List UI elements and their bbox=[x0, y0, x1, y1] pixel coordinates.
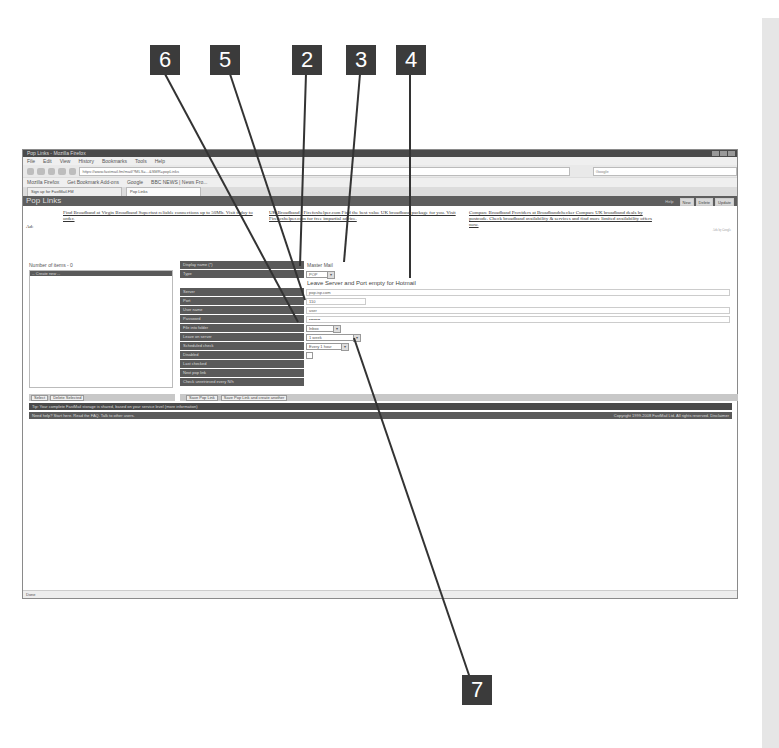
bookmark-item[interactable]: Google bbox=[127, 178, 143, 187]
browser-status-bar: Done bbox=[23, 590, 737, 598]
leave-on-server-value: 1 week bbox=[309, 335, 322, 340]
maximize-icon[interactable] bbox=[720, 151, 727, 156]
scheduled-check-select[interactable]: Every 1 hour▾ bbox=[306, 343, 342, 350]
display-name-input[interactable]: Master Mail bbox=[307, 262, 333, 268]
field-label: Server bbox=[180, 288, 304, 296]
field-label: Scheduled check bbox=[180, 342, 304, 350]
callout-2: 2 bbox=[292, 45, 322, 75]
reload-icon[interactable] bbox=[48, 168, 55, 175]
bookmark-item[interactable]: BBC NEWS | News Fro... bbox=[151, 178, 207, 187]
field-folder: File into folder Inbox▾ bbox=[180, 324, 732, 332]
chevron-down-icon[interactable]: ▾ bbox=[341, 343, 349, 351]
callout-5: 5 bbox=[210, 45, 240, 75]
form-actions: Save Pop Link Save Pop Link and create a… bbox=[180, 394, 738, 401]
update-button[interactable]: Update bbox=[715, 198, 734, 206]
bookmark-item[interactable]: Get Bookmark Add-ons bbox=[67, 178, 119, 187]
menu-edit[interactable]: Edit bbox=[43, 157, 52, 165]
callout-6: 6 bbox=[150, 45, 180, 75]
chevron-down-icon[interactable]: ▾ bbox=[353, 334, 361, 342]
callout-7: 7 bbox=[462, 675, 492, 705]
back-icon[interactable] bbox=[27, 168, 34, 175]
search-input[interactable]: Google bbox=[593, 167, 737, 176]
item-count: Number of items - 0 bbox=[29, 262, 173, 268]
check-unretrieved-value bbox=[304, 378, 732, 386]
field-port: Port 110 bbox=[180, 297, 732, 305]
field-label: File into folder bbox=[180, 324, 304, 332]
port-input[interactable]: 110 bbox=[306, 298, 366, 305]
field-leave-on-server: Leave on server 1 week▾ bbox=[180, 333, 732, 341]
field-last-checked: Last checked bbox=[180, 360, 732, 368]
bookmarks-toolbar: Mozilla Firefox Get Bookmark Add-ons Goo… bbox=[23, 177, 737, 187]
scheduled-check-value: Every 1 hour bbox=[309, 344, 332, 349]
delete-selected-button[interactable]: Delete Selected bbox=[50, 395, 84, 401]
items-panel: Number of items - 0 -- Create new -- bbox=[29, 262, 173, 388]
ad-link[interactable]: Find Broadband at Virgin Broadband Super… bbox=[63, 210, 263, 222]
field-label: Type bbox=[180, 270, 304, 278]
menu-bar: File Edit View History Bookmarks Tools H… bbox=[23, 157, 737, 165]
field-check-unretrieved: Check unretrieved every N/h bbox=[180, 378, 732, 386]
menu-view[interactable]: View bbox=[60, 157, 71, 165]
page-edge-strip bbox=[762, 18, 779, 748]
callout-3: 3 bbox=[346, 45, 376, 75]
folder-value: Inbox bbox=[309, 326, 319, 331]
ad-label: Ad: bbox=[26, 224, 34, 229]
ads-by-google[interactable]: Ads by Google bbox=[713, 228, 731, 232]
save-and-create-button[interactable]: Save Pop Link and create another bbox=[221, 395, 288, 401]
password-input[interactable]: •••••••• bbox=[306, 316, 730, 323]
type-value: POP bbox=[309, 272, 317, 277]
leave-on-server-select[interactable]: 1 week▾ bbox=[306, 334, 354, 341]
close-icon[interactable] bbox=[728, 151, 735, 156]
field-label: Port bbox=[180, 297, 304, 305]
select-button[interactable]: Select bbox=[31, 395, 48, 401]
folder-select[interactable]: Inbox▾ bbox=[306, 325, 334, 332]
window-title: Pop Links - Mozilla Firefox bbox=[27, 150, 86, 156]
copyright: Copyright 1999-2008 FastMail Ltd. All ri… bbox=[614, 412, 729, 419]
chevron-down-icon[interactable]: ▾ bbox=[327, 271, 335, 279]
ad-link[interactable]: UK Broadband - Firefoxhelper.com Find th… bbox=[269, 210, 459, 222]
bookmark-item[interactable]: Mozilla Firefox bbox=[27, 178, 59, 187]
field-next-pop: Next pop link bbox=[180, 369, 732, 377]
tab-strip: Sign up for FastMail.FM Pop Links bbox=[23, 187, 737, 196]
field-type: Type POP▾ bbox=[180, 270, 732, 278]
field-label: Password bbox=[180, 315, 304, 323]
field-disabled: Disabled bbox=[180, 351, 732, 359]
url-input[interactable]: https://www.fastmail.fm/mail/?MLS=...&SM… bbox=[79, 167, 569, 176]
delete-button[interactable]: Delete bbox=[696, 198, 714, 206]
ad-link[interactable]: Compare Broadband Providers at Broadband… bbox=[469, 210, 659, 228]
last-checked-value bbox=[304, 360, 732, 368]
ads-area: Ad: Find Broadband at Virgin Broadband S… bbox=[23, 206, 737, 240]
field-label: Last checked bbox=[180, 360, 304, 368]
items-listbox[interactable]: -- Create new -- bbox=[29, 270, 173, 388]
page-title: Pop Links bbox=[26, 196, 61, 205]
footer-help-links[interactable]: Need help? Start here. Read the FAQ. Tal… bbox=[32, 413, 135, 418]
tab-pop-links[interactable]: Pop Links bbox=[126, 187, 201, 196]
field-display-name: Display name (*) Master Mail bbox=[180, 261, 732, 269]
forward-icon[interactable] bbox=[37, 168, 44, 175]
menu-tools[interactable]: Tools bbox=[135, 157, 147, 165]
menu-help[interactable]: Help bbox=[155, 157, 165, 165]
field-label: Leave on server bbox=[180, 333, 304, 341]
field-label: User name bbox=[180, 306, 304, 314]
tab-signup[interactable]: Sign up for FastMail.FM bbox=[27, 187, 122, 196]
home-icon[interactable] bbox=[69, 168, 76, 175]
username-input[interactable]: user bbox=[306, 307, 730, 314]
tip-bar: Tip: Your complete FastMail storage is s… bbox=[29, 403, 732, 410]
new-button[interactable]: New bbox=[680, 198, 694, 206]
save-pop-link-button[interactable]: Save Pop Link bbox=[186, 395, 218, 401]
disabled-checkbox[interactable] bbox=[306, 352, 313, 359]
callout-4: 4 bbox=[396, 45, 426, 75]
menu-bookmarks[interactable]: Bookmarks bbox=[102, 157, 127, 165]
stop-icon[interactable] bbox=[58, 168, 65, 175]
menu-history[interactable]: History bbox=[78, 157, 94, 165]
items-actions: Select Delete Selected bbox=[29, 394, 175, 401]
field-password: Password •••••••• bbox=[180, 315, 732, 323]
navigation-toolbar: https://www.fastmail.fm/mail/?MLS=...&SM… bbox=[23, 165, 737, 177]
minimize-icon[interactable] bbox=[712, 151, 719, 156]
server-input[interactable]: pop.isp.com bbox=[306, 289, 730, 296]
list-item[interactable]: -- Create new -- bbox=[30, 271, 172, 276]
field-label: Disabled bbox=[180, 351, 304, 359]
type-select[interactable]: POP▾ bbox=[306, 271, 328, 278]
menu-file[interactable]: File bbox=[27, 157, 35, 165]
field-label: Display name (*) bbox=[180, 261, 304, 269]
chevron-down-icon[interactable]: ▾ bbox=[333, 325, 341, 333]
